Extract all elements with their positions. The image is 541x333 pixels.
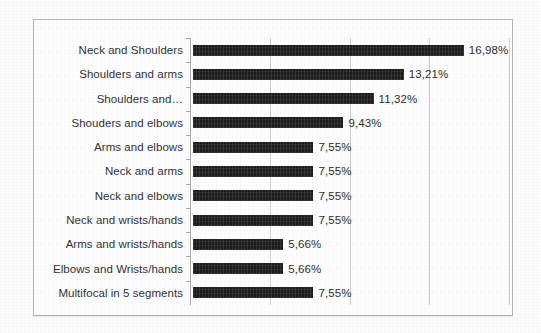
category-label: Shoulders and…	[97, 93, 183, 105]
bar	[193, 215, 313, 226]
axis-tick	[186, 184, 190, 185]
category-label: Neck and Shoulders	[79, 44, 183, 56]
bar-row: Neck and elbows7,55%	[190, 184, 509, 208]
axis-tick	[186, 87, 190, 88]
axis-tick	[186, 135, 190, 136]
bar-value-label: 13,21%	[409, 68, 449, 80]
bar	[193, 142, 313, 153]
gridline	[509, 38, 510, 305]
category-label: Shouders and elbows	[71, 117, 183, 129]
bar	[193, 117, 343, 128]
category-label: Shoulders and arms	[79, 68, 183, 80]
bar	[193, 69, 404, 80]
bar-row: Shoulders and…11,32%	[190, 87, 509, 111]
category-label: Neck and arms	[105, 165, 183, 177]
bar	[193, 287, 313, 298]
axis-tick	[186, 208, 190, 209]
category-label: Neck and wrists/hands	[66, 214, 183, 226]
category-label: Arms and wrists/hands	[66, 238, 183, 250]
bar	[193, 239, 283, 250]
axis-tick	[186, 62, 190, 63]
bar	[193, 45, 464, 56]
category-label: Arms and elbows	[94, 141, 183, 153]
bar-row: Arms and wrists/hands5,66%	[190, 232, 509, 256]
bar-value-label: 7,55%	[318, 165, 351, 177]
axis-tick	[186, 159, 190, 160]
bar-row: Shouders and elbows9,43%	[190, 111, 509, 135]
axis-tick	[186, 281, 190, 282]
bar-value-label: 7,55%	[318, 190, 351, 202]
bar	[193, 190, 313, 201]
bar-row: Multifocal in 5 segments7,55%	[190, 281, 509, 305]
bar-row: Elbows and Wrists/hands5,66%	[190, 256, 509, 280]
category-label: Neck and elbows	[95, 190, 183, 202]
bar-row: Shoulders and arms13,21%	[190, 62, 509, 86]
bar-value-label: 7,55%	[318, 141, 351, 153]
bar-value-label: 11,32%	[379, 93, 418, 105]
bar	[193, 166, 313, 177]
category-label: Elbows and Wrists/hands	[53, 263, 183, 275]
bar-value-label: 5,66%	[288, 238, 321, 250]
bar	[193, 93, 374, 104]
bar-value-label: 5,66%	[288, 263, 321, 275]
bar	[193, 263, 283, 274]
bar-rows: Neck and Shoulders16,98%Shoulders and ar…	[190, 38, 509, 305]
axis-tick	[186, 38, 190, 39]
bar-row: Arms and elbows7,55%	[190, 135, 509, 159]
plot-area: Neck and Shoulders16,98%Shoulders and ar…	[190, 38, 509, 305]
axis-tick	[186, 111, 190, 112]
bar-value-label: 7,55%	[318, 214, 351, 226]
chart-frame: Neck and Shoulders16,98%Shoulders and ar…	[33, 19, 513, 316]
bar-value-label: 7,55%	[318, 287, 351, 299]
axis-tick	[186, 256, 190, 257]
scanned-page: Neck and Shoulders16,98%Shoulders and ar…	[0, 0, 541, 333]
bar-row: Neck and arms7,55%	[190, 159, 509, 183]
bar-row: Neck and wrists/hands7,55%	[190, 208, 509, 232]
category-label: Multifocal in 5 segments	[58, 287, 183, 299]
bar-row: Neck and Shoulders16,98%	[190, 38, 509, 62]
axis-tick	[186, 232, 190, 233]
bar-value-label: 9,43%	[348, 117, 381, 129]
bar-value-label: 16,98%	[469, 44, 509, 56]
